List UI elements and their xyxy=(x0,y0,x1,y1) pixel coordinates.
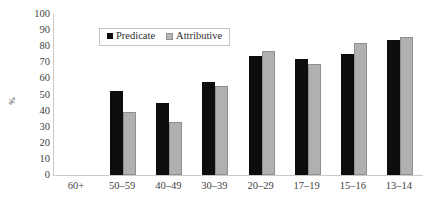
y-axis-title: % xyxy=(7,91,17,111)
x-axis-tick: 50–59 xyxy=(99,180,145,191)
legend-entry-predicate: Predicate xyxy=(107,31,155,42)
x-axis-tick: 15–16 xyxy=(330,180,376,191)
bar-predicate xyxy=(110,91,123,175)
bar-attributive xyxy=(400,37,413,175)
bar-predicate xyxy=(156,103,169,175)
legend-entry-attributive: Attributive xyxy=(166,31,222,42)
chart-legend: PredicateAttributive xyxy=(99,28,230,46)
y-axis-tick: 90 xyxy=(18,25,50,35)
y-axis-tick: 40 xyxy=(18,106,50,116)
y-axis-tick: 0 xyxy=(18,170,50,180)
y-axis-tick: 80 xyxy=(18,41,50,51)
bar-group xyxy=(377,14,423,175)
bar-attributive xyxy=(215,86,228,175)
bar-group-inner xyxy=(64,14,90,175)
x-axis-tick: 13–14 xyxy=(376,180,422,191)
bar-predicate xyxy=(295,59,308,175)
y-axis-tick: 30 xyxy=(18,122,50,132)
x-axis-tick: 30–39 xyxy=(191,180,237,191)
bar-group xyxy=(239,14,285,175)
x-axis-tick: 60+ xyxy=(53,180,99,191)
legend-label-predicate: Predicate xyxy=(116,31,155,42)
bar-attributive xyxy=(354,43,367,175)
bar-attributive xyxy=(262,51,275,175)
y-axis-tick: 10 xyxy=(18,154,50,164)
bar-group-inner xyxy=(295,14,321,175)
bar-attributive xyxy=(123,112,136,175)
bar-attributive xyxy=(308,64,321,175)
legend-swatch-predicate xyxy=(107,33,113,39)
legend-label-attributive: Attributive xyxy=(176,31,222,42)
bar-predicate xyxy=(387,40,400,175)
y-axis-tick: 70 xyxy=(18,57,50,67)
bar-group xyxy=(331,14,377,175)
y-axis-tick-labels: 1009080706050403020100 xyxy=(18,8,50,182)
bar-group xyxy=(285,14,331,175)
y-axis-tick: 20 xyxy=(18,138,50,148)
x-axis-tick: 40–49 xyxy=(145,180,191,191)
bar-group xyxy=(54,14,100,175)
y-axis-tick: 60 xyxy=(18,73,50,83)
bar-chart: % 1009080706050403020100 60+50–5940–4930… xyxy=(0,0,427,214)
bar-predicate xyxy=(341,54,354,175)
bar-attributive xyxy=(169,122,182,175)
legend-swatch-attributive xyxy=(166,33,173,40)
bar-group-inner xyxy=(387,14,413,175)
x-axis-tick: 20–29 xyxy=(238,180,284,191)
bar-group-inner xyxy=(341,14,367,175)
bar-group-inner xyxy=(249,14,275,175)
y-axis-tick: 50 xyxy=(18,90,50,100)
bar-predicate xyxy=(202,82,215,175)
y-axis-tick: 100 xyxy=(18,9,50,19)
x-axis-tick: 17–19 xyxy=(284,180,330,191)
bar-predicate xyxy=(249,56,262,175)
x-axis-tick-labels: 60+50–5940–4930–3920–2917–1915–1613–14 xyxy=(53,180,422,191)
